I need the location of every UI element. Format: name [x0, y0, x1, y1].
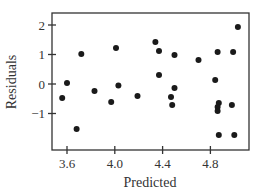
y-tick-label: 2 — [39, 18, 46, 33]
data-point — [59, 95, 65, 101]
x-tick-label: 4.4 — [154, 156, 171, 171]
data-point — [216, 132, 222, 138]
x-tick-label: 4.8 — [202, 156, 218, 171]
data-point — [235, 24, 241, 30]
y-tick-label: 0 — [39, 77, 46, 92]
y-tick-label: 1 — [39, 47, 46, 62]
data-point — [156, 48, 162, 54]
data-point — [169, 102, 175, 108]
residual-scatter-plot: −1012 3.64.04.44.8 Predicted Residuals — [0, 0, 261, 194]
data-points — [59, 24, 241, 138]
data-point — [215, 108, 221, 114]
data-point — [135, 93, 141, 99]
x-axis-title: Predicted — [124, 175, 177, 190]
data-point — [113, 45, 119, 51]
data-point — [92, 88, 98, 94]
data-point — [196, 57, 202, 63]
data-point — [78, 51, 84, 57]
data-point — [212, 77, 218, 83]
data-point — [64, 80, 70, 86]
data-point — [156, 72, 162, 78]
data-point — [229, 102, 235, 108]
x-tick-label: 3.6 — [59, 156, 76, 171]
data-point — [152, 39, 158, 45]
x-tick-label: 4.0 — [107, 156, 123, 171]
data-point — [172, 85, 178, 91]
data-point — [74, 126, 80, 132]
data-point — [172, 52, 178, 58]
data-point — [108, 99, 114, 105]
y-axis-title: Residuals — [4, 55, 19, 109]
data-point — [168, 94, 174, 100]
plot-frame — [52, 13, 249, 150]
y-tick-label: −1 — [31, 106, 45, 121]
data-point — [230, 49, 236, 55]
data-point — [231, 132, 237, 138]
data-point — [115, 83, 121, 89]
data-point — [215, 49, 221, 55]
